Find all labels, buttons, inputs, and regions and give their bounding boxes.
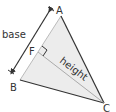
label-c: C — [103, 103, 110, 112]
label-base: base — [2, 29, 26, 40]
label-b: B — [10, 82, 17, 93]
triangle-diagram: base A B C F height — [0, 0, 116, 112]
base-arrow-tick-top — [48, 7, 54, 11]
label-a: A — [56, 5, 63, 16]
label-f: F — [29, 46, 35, 57]
